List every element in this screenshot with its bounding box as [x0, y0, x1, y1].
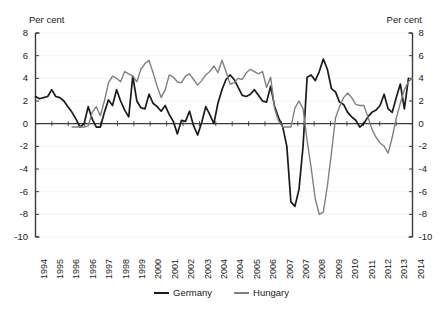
y-axis-tick-label: -6: [10, 187, 28, 197]
x-axis-tick-label: 2010: [351, 259, 360, 279]
y-axis-tick-label: 4: [419, 73, 437, 83]
x-axis-tick-label: 2003: [204, 259, 213, 279]
y-axis-tick-label: 2: [10, 96, 28, 106]
data-series: [36, 59, 413, 214]
chart-container: Per cent Per cent 86420-2-4-6-8-10 86420…: [0, 0, 443, 310]
legend-item-hungary[interactable]: Hungary: [234, 288, 289, 298]
y-axis-tick-label: -8: [10, 209, 28, 219]
legend-item-germany[interactable]: Germany: [154, 288, 212, 298]
chart-legend: GermanyHungary: [0, 288, 443, 298]
x-axis-tick-label: 1999: [138, 259, 147, 279]
y-axis-tick-label: -10: [419, 232, 437, 242]
x-axis-tick-label: 2011: [368, 260, 377, 279]
y-axis-tick-label: 6: [419, 51, 437, 61]
x-axis-tick-label: 1998: [122, 259, 131, 279]
y-axis-tick-label: -8: [419, 209, 437, 219]
x-axis-tick-label: 1997: [105, 259, 114, 279]
x-axis-tick-label: 2004: [220, 259, 229, 279]
x-axis-tick-label: 2012: [384, 259, 393, 279]
x-axis-tick-label: 2014: [417, 259, 426, 279]
gridlines: [36, 33, 413, 237]
x-axis-tick-label: 2001: [171, 259, 180, 279]
y-axis-tick-label: -6: [419, 187, 437, 197]
x-axis-tick-label: 2007: [302, 259, 311, 279]
y-axis-tick-label: 0: [419, 119, 437, 129]
legend-line-icon: [154, 292, 169, 294]
y-axis-tick-label: -2: [419, 141, 437, 151]
x-axis-tick-label: 2005: [253, 259, 262, 279]
legend-line-icon: [234, 292, 249, 294]
axis-ticks: [36, 33, 413, 237]
x-axis-tick-label: 1996: [89, 259, 98, 279]
y-axis-tick-label: -10: [10, 232, 28, 242]
x-axis-tick-label: 2008: [318, 259, 327, 279]
y-axis-tick-label: -4: [419, 164, 437, 174]
y-axis-tick-label: -2: [10, 141, 28, 151]
y-axis-tick-label: 8: [10, 28, 28, 38]
x-axis-tick-label: 2000: [154, 259, 163, 279]
x-axis-tick-label: 2004: [236, 259, 245, 279]
y-axis-tick-label: 2: [419, 96, 437, 106]
legend-label: Germany: [173, 288, 212, 298]
x-axis-tick-label: 2002: [187, 259, 196, 279]
x-axis-tick-label: 2007: [286, 259, 295, 279]
x-axis-tick-label: 1996: [72, 259, 81, 279]
x-axis-tick-label: 2013: [400, 259, 409, 279]
x-axis-tick-label: 1995: [56, 259, 65, 279]
y-axis-tick-label: 8: [419, 28, 437, 38]
x-axis-tick-label: 1994: [40, 259, 49, 279]
y-axis-tick-label: 6: [10, 51, 28, 61]
x-axis-tick-label: 2006: [269, 259, 278, 279]
x-axis-tick-label: 2009: [335, 259, 344, 279]
y-axis-tick-label: 0: [10, 119, 28, 129]
legend-label: Hungary: [253, 288, 289, 298]
y-axis-tick-label: -4: [10, 164, 28, 174]
axis-spines: [36, 33, 413, 237]
y-axis-tick-label: 4: [10, 73, 28, 83]
